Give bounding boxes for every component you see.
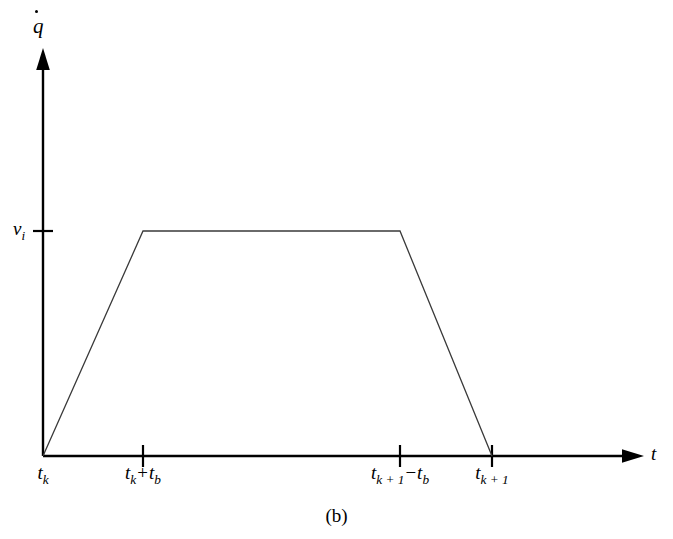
- velocity-profile-curve: [43, 231, 492, 456]
- x-tick-label-tk1: tk + 1: [475, 463, 508, 482]
- xtick1-sub: k: [130, 472, 136, 487]
- xtick0-sub: k: [43, 472, 49, 487]
- y-axis-label: q: [33, 16, 44, 37]
- q-dot-accent: q: [33, 16, 44, 37]
- figure-caption: (b): [0, 505, 673, 527]
- y-tick-label-vi: vi: [13, 219, 25, 238]
- xtick2-operator: −: [404, 462, 417, 483]
- x-tick-label-tk-plus-tb: tk+tb: [125, 463, 161, 482]
- xtick1-operator: +: [136, 462, 149, 483]
- xtick2-sub: k + 1: [376, 472, 404, 487]
- xtick1-sub2: b: [154, 472, 161, 487]
- xtick2-sub2: b: [422, 472, 429, 487]
- trapezoidal-velocity-plot: [0, 0, 673, 539]
- x-axis-arrowhead: [622, 449, 644, 463]
- x-tick-label-tk1-minus-tb: tk + 1−tb: [371, 463, 429, 482]
- x-axis-label: t: [651, 444, 656, 463]
- xtick3-sub: k + 1: [481, 472, 509, 487]
- x-tick-label-tk: tk: [37, 463, 48, 482]
- figure-container: q t vi tk tk+tb tk + 1−tb tk + 1 (b): [0, 0, 673, 539]
- y-axis-label-text: q: [33, 14, 44, 38]
- y-tick-label-subscript: i: [21, 228, 25, 243]
- y-axis-arrowhead: [36, 48, 50, 70]
